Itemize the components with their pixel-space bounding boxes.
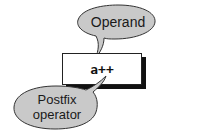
postfix-operator-label: Postfix operator — [18, 92, 96, 122]
operand-label: Operand — [82, 15, 154, 30]
postfix-operator-label-text: Postfix operator — [33, 92, 81, 122]
diagram-canvas: a++ Operand Postfix operator — [0, 0, 197, 140]
